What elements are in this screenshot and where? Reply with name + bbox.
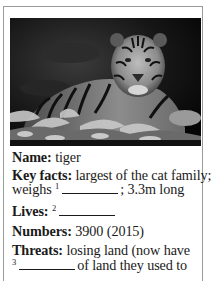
blank-1[interactable] — [62, 183, 118, 194]
blank-number-2: 2 — [52, 203, 56, 213]
tiger-image-icon — [10, 18, 201, 146]
numbers-value: 3900 (2015) — [75, 223, 144, 239]
blank-number-1: 1 — [55, 181, 59, 191]
fact-lives: Lives: 2 — [12, 204, 117, 220]
fact-key-facts: Key facts: largest of the cat family; — [12, 168, 211, 182]
threats-text-2: of land they used to — [77, 257, 187, 273]
fact-name: Name: tiger — [12, 150, 81, 164]
blank-number-3: 3 — [12, 257, 16, 267]
blank-2[interactable] — [59, 205, 115, 216]
length-text: ; 3.3m long — [120, 181, 184, 197]
lives-label: Lives: — [12, 203, 48, 219]
fact-threats-line2: 3of land they used to — [12, 258, 187, 274]
name-value: tiger — [55, 149, 81, 165]
threats-label: Threats: — [12, 242, 63, 258]
threats-text: losing land (now have — [66, 242, 190, 258]
fact-card: Name: tiger Key facts: largest of the ca… — [3, 6, 203, 281]
fact-numbers: Numbers: 3900 (2015) — [12, 224, 144, 238]
weighs-text: weighs — [12, 181, 52, 197]
fact-key-facts-line2: weighs 1; 3.3m long — [12, 182, 184, 198]
fact-threats: Threats: losing land (now have — [12, 243, 190, 257]
name-label: Name: — [12, 149, 52, 165]
tiger-photo — [10, 18, 201, 146]
blank-3[interactable] — [19, 259, 75, 270]
numbers-label: Numbers: — [12, 223, 72, 239]
